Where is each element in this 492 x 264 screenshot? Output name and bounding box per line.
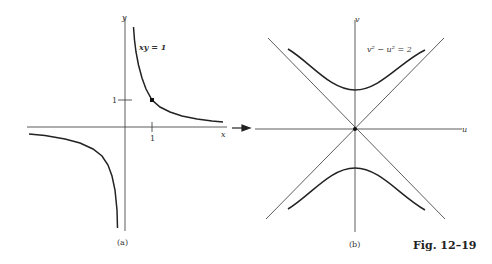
- marked-point: [150, 98, 154, 102]
- hyperbola-xy-1: [29, 27, 223, 228]
- figure-label: Fig. 12–19: [413, 239, 476, 252]
- caption-b: (b): [349, 240, 360, 249]
- v-axis-label: v: [355, 15, 360, 24]
- mapping-arrow: [232, 125, 250, 131]
- x-axis-label: x: [221, 130, 226, 139]
- x-tick-label: 1: [150, 134, 155, 143]
- curve-label-a: xy = 1: [139, 42, 166, 52]
- y-tick-label: 1: [112, 96, 117, 105]
- panel-b-axes: [255, 20, 462, 232]
- caption-a: (a): [117, 238, 128, 247]
- u-axis-label: u: [462, 125, 467, 134]
- origin-point: [353, 127, 357, 131]
- y-axis-label: y: [122, 13, 127, 22]
- curve-label-b: v² − u² = 2: [367, 45, 412, 54]
- panel-a-axes: [27, 17, 227, 231]
- figure-canvas: [0, 0, 492, 264]
